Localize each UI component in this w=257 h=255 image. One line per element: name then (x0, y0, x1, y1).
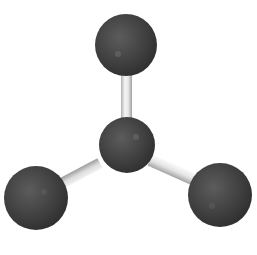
atom-bottom-left (4, 166, 68, 230)
molecule-model (0, 0, 257, 255)
highlight-central (133, 134, 139, 140)
highlight-top (115, 51, 121, 57)
atom-top (95, 14, 157, 76)
bond-top (121, 70, 132, 122)
atom-central (99, 117, 155, 173)
highlight-bottom-right (209, 203, 215, 209)
highlight-bottom-left (41, 189, 47, 195)
atom-bottom-right (188, 163, 252, 227)
